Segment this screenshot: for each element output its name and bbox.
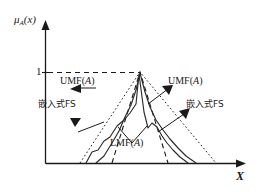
embedded-fs-left-label: 嵌入式FS xyxy=(38,100,76,109)
y-axis-arrow-icon xyxy=(42,20,50,30)
x-axis-label: X xyxy=(236,170,244,182)
umf-left-label: UMF(A) xyxy=(60,76,94,86)
embedded-fs-right-label: 嵌入式FS xyxy=(186,100,224,109)
embedded-fs-right-leader-line xyxy=(158,114,184,132)
lmf-label-close: ) xyxy=(140,137,143,148)
umf-right-label-text: UMF( xyxy=(168,75,193,86)
embedded-fs-left-leader-line xyxy=(78,122,104,132)
fuzzy-membership-figure: μA(x) X 1 UMF(A) UMF(A) LMF(A) 嵌入式FS 嵌入式… xyxy=(0,0,259,192)
umf-left-label-text: UMF( xyxy=(60,75,85,86)
y-axis-label-arg: (x) xyxy=(24,13,36,25)
y-axis-label: μA(x) xyxy=(14,14,36,27)
embedded-fs-left-arrow-icon xyxy=(70,118,81,127)
umf-right-label: UMF(A) xyxy=(168,76,202,86)
lmf-label: LMF(A) xyxy=(110,138,143,148)
umf-left-label-close: ) xyxy=(91,75,94,86)
umf-right-leader-line xyxy=(148,89,168,104)
lmf-label-text: LMF( xyxy=(110,137,134,148)
embedded-fs-right-arrow-icon xyxy=(179,108,190,119)
figure-canvas xyxy=(0,0,259,192)
umf-right-arrow-icon xyxy=(162,85,173,95)
y-tick-one-label: 1 xyxy=(36,66,42,77)
x-axis-arrow-icon xyxy=(236,160,246,168)
umf-right-label-close: ) xyxy=(199,75,202,86)
